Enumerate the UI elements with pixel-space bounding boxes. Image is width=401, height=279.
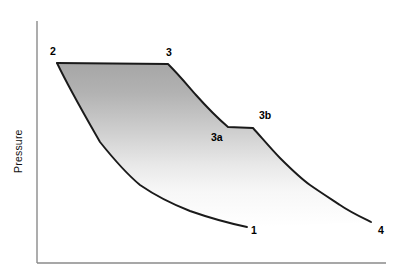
label-state-2: 2 (50, 45, 56, 57)
shaded-work-area (57, 63, 371, 227)
pv-diagram-figure: 2 3 3a 3b 1 4 Pressure (0, 0, 401, 279)
label-state-4: 4 (378, 224, 384, 236)
label-state-1: 1 (251, 224, 257, 236)
label-state-3b: 3b (259, 109, 271, 121)
y-axis-title: Pressure (12, 129, 24, 173)
label-state-3: 3 (166, 46, 172, 58)
label-state-3a: 3a (211, 131, 223, 143)
chart-canvas: 2 3 3a 3b 1 4 Pressure (0, 0, 401, 279)
